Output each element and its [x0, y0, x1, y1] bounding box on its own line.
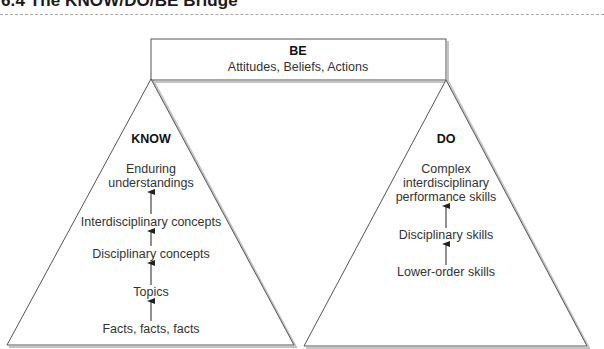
do-level-disciplinary-skills: Disciplinary skills [399, 228, 493, 242]
do-level-performance-skills: performance skills [396, 190, 497, 204]
know-level-topics: Topics [133, 285, 168, 299]
do-heading: DO [437, 132, 456, 146]
know-heading: KNOW [131, 132, 171, 146]
know-level-interdisciplinary-concepts: Interdisciplinary concepts [81, 215, 221, 229]
be-subtitle: Attitudes, Beliefs, Actions [228, 60, 368, 74]
know-level-disciplinary-concepts: Disciplinary concepts [92, 247, 209, 261]
know-level-facts: Facts, facts, facts [102, 322, 199, 336]
do-level-complex: Complex [421, 162, 471, 176]
know-level-enduring: Enduring [126, 162, 176, 176]
know-do-be-diagram: BE Attitudes, Beliefs, Actions KNOW Endu… [0, 0, 604, 349]
know-level-understandings: understandings [108, 176, 193, 190]
do-level-lower-order-skills: Lower-order skills [397, 265, 495, 279]
do-level-interdisciplinary: interdisciplinary [403, 176, 490, 190]
be-heading: BE [289, 44, 306, 58]
